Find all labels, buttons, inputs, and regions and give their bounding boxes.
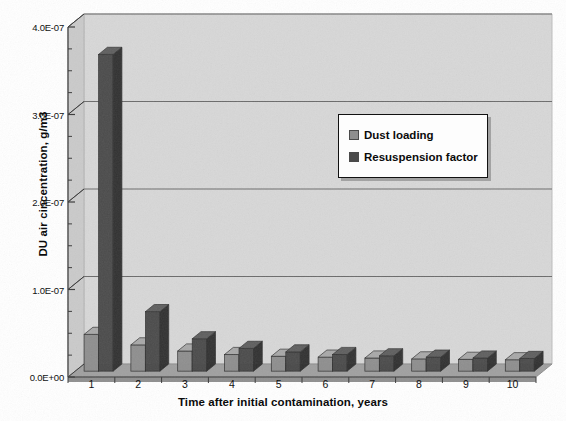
x-axis-tick-label: 8	[399, 378, 439, 390]
bar-resuspension-factor-year-2	[145, 305, 168, 372]
bar-resuspension-factor-year-5	[286, 345, 309, 371]
x-axis-tick-label: 10	[493, 378, 533, 390]
bar-resuspension-factor-year-4	[239, 341, 262, 371]
legend-item-dust-loading: Dust loading	[349, 124, 487, 146]
bar-resuspension-factor-year-3	[192, 332, 215, 372]
x-axis-tick-label: 7	[352, 378, 392, 390]
x-axis-title: Time after initial contamination, years	[0, 396, 566, 408]
plot-area	[0, 0, 566, 421]
x-axis-tick-label: 3	[165, 378, 205, 390]
y-axis-tick-labels: 4.0E-073.0E-072.0E-071.0E-070.0E+00	[0, 0, 64, 421]
legend-swatch-dust-loading	[349, 130, 359, 140]
x-axis-tick-label: 9	[446, 378, 486, 390]
y-axis-title: DU air cincentration, g/m3	[37, 69, 49, 299]
bar-resuspension-factor-year-1	[99, 47, 122, 371]
legend-label-resuspension-factor: Resuspension factor	[364, 151, 478, 163]
y-axis-tick-label: 3.0E-07	[0, 109, 64, 120]
x-axis-tick-label: 6	[305, 378, 345, 390]
legend-label-dust-loading: Dust loading	[364, 129, 434, 141]
x-axis-tick-label: 5	[259, 378, 299, 390]
y-axis-tick-label: 0.0E+00	[0, 372, 64, 383]
y-axis-tick-label: 1.0E-07	[0, 284, 64, 295]
x-axis-tick-label: 2	[118, 378, 158, 390]
x-axis-tick-label: 4	[212, 378, 252, 390]
chart-legend: Dust loading Resuspension factor	[338, 114, 488, 178]
x-axis-tick-label: 1	[71, 378, 111, 390]
y-axis-tick-label: 4.0E-07	[0, 22, 64, 33]
y-axis-tick-label: 2.0E-07	[0, 197, 64, 208]
legend-item-resuspension-factor: Resuspension factor	[349, 146, 487, 168]
chart-3d-bar: 4.0E-073.0E-072.0E-071.0E-070.0E+00 1234…	[0, 0, 566, 421]
legend-swatch-resuspension-factor	[349, 152, 359, 162]
